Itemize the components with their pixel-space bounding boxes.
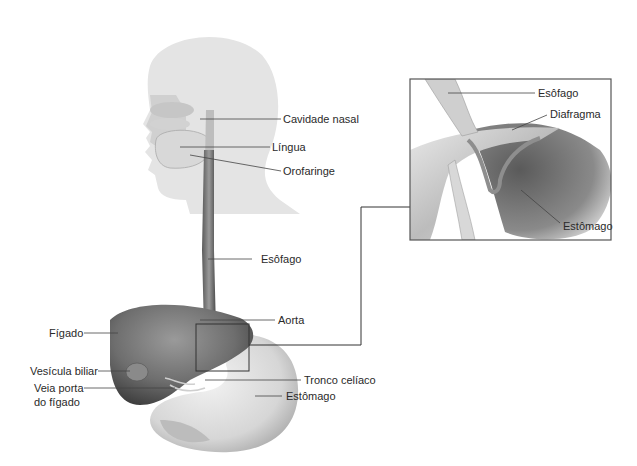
- label-veia-porta-line1: Veia porta: [34, 382, 84, 395]
- inset-label-esofago: Esôfago: [538, 87, 578, 100]
- label-lingua: Língua: [272, 141, 306, 154]
- label-veia-porta-line2: do fígado: [34, 396, 80, 409]
- label-estomago: Estômago: [286, 390, 336, 403]
- label-aorta: Aorta: [278, 314, 304, 327]
- inset-connector: [249, 207, 410, 345]
- esophagus-shape: [202, 150, 216, 330]
- label-vesicula-biliar: Vesícula biliar: [30, 365, 98, 378]
- label-cavidade-nasal: Cavidade nasal: [283, 113, 359, 126]
- label-orofaringe: Orofaringe: [283, 165, 335, 178]
- inset-label-diafragma: Diafragma: [550, 108, 601, 121]
- label-figado: Fígado: [49, 327, 83, 340]
- inset-label-estomago: Estômago: [563, 220, 613, 233]
- label-tronco-celiaco: Tronco celíaco: [304, 374, 376, 387]
- head-silhouette: [143, 37, 300, 214]
- inset-illustration: [410, 79, 611, 240]
- label-esofago: Esôfago: [261, 253, 301, 266]
